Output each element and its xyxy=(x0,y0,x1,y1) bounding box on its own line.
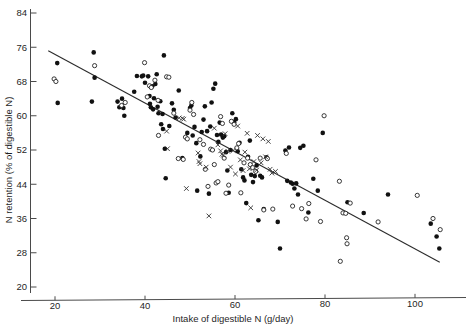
y-tick-label-36: 36 xyxy=(16,213,27,224)
data-point-open xyxy=(220,121,224,125)
data-point-filled xyxy=(213,81,218,86)
data-point-filled xyxy=(115,99,120,104)
data-point-open xyxy=(258,156,262,160)
data-point-open xyxy=(344,211,348,215)
data-point-open xyxy=(185,137,189,141)
data-point-cross xyxy=(252,159,257,164)
data-point-filled xyxy=(160,112,165,117)
data-point-open xyxy=(219,115,223,119)
data-point-filled xyxy=(203,104,208,109)
data-point-filled xyxy=(434,234,439,239)
data-point-open xyxy=(307,201,311,205)
data-point-filled xyxy=(361,211,366,216)
data-point-open xyxy=(206,184,210,188)
data-point-filled xyxy=(90,99,95,104)
data-point-open xyxy=(322,114,326,118)
data-point-filled xyxy=(242,178,247,183)
data-point-filled xyxy=(316,188,321,193)
data-point-filled xyxy=(208,124,213,129)
y-tick-label-28: 28 xyxy=(16,247,27,258)
data-point-filled xyxy=(156,111,161,116)
regression-line xyxy=(48,51,440,262)
data-point-filled xyxy=(207,191,212,196)
data-point-filled xyxy=(199,130,204,135)
data-point-open xyxy=(172,111,176,115)
data-point-filled xyxy=(91,50,96,55)
data-point-filled xyxy=(234,117,239,122)
x-tick-label-80: 80 xyxy=(320,298,331,309)
data-point-open xyxy=(192,112,196,116)
data-point-filled xyxy=(292,186,297,191)
data-point-open xyxy=(337,179,341,183)
data-point-open xyxy=(338,259,342,263)
data-point-filled xyxy=(251,180,256,185)
data-point-open xyxy=(93,64,97,68)
data-point-cross xyxy=(238,158,243,163)
data-point-filled xyxy=(190,133,195,138)
data-point-filled xyxy=(311,176,316,181)
data-point-open xyxy=(210,148,214,152)
scatter-plot: 20283644526068768420406080100Intake of d… xyxy=(0,0,467,333)
data-point-filled xyxy=(296,192,301,197)
data-point-filled xyxy=(192,125,197,130)
data-point-filled xyxy=(244,201,249,206)
data-point-open xyxy=(284,151,288,155)
data-point-open xyxy=(54,79,58,83)
data-point-filled xyxy=(428,221,433,226)
data-point-cross xyxy=(259,161,264,166)
data-point-filled xyxy=(256,218,261,223)
data-point-filled xyxy=(209,100,214,105)
data-point-filled xyxy=(151,107,156,112)
y-tick-label-52: 52 xyxy=(16,144,27,155)
data-point-filled xyxy=(122,113,127,118)
data-point-open xyxy=(181,157,185,161)
data-point-filled xyxy=(135,74,140,79)
data-point-open xyxy=(201,142,205,146)
data-point-cross xyxy=(207,214,212,219)
data-point-cross xyxy=(243,150,248,155)
y-tick-label-76: 76 xyxy=(16,42,27,53)
data-point-filled xyxy=(55,61,60,66)
data-point-filled xyxy=(211,86,216,91)
data-point-open xyxy=(345,242,349,246)
data-point-filled xyxy=(306,210,311,215)
data-point-open xyxy=(318,219,322,223)
data-point-open xyxy=(145,95,149,99)
data-point-filled xyxy=(195,188,200,193)
data-point-open xyxy=(198,138,202,142)
data-point-open xyxy=(345,236,349,240)
data-point-open xyxy=(142,61,146,65)
data-point-filled xyxy=(386,192,391,197)
data-point-open xyxy=(431,216,435,220)
data-point-cross xyxy=(233,172,238,177)
data-point-open xyxy=(156,98,160,102)
data-point-open xyxy=(239,191,243,195)
data-point-open xyxy=(291,204,295,208)
data-point-open xyxy=(246,156,250,160)
data-point-open xyxy=(314,158,318,162)
data-point-cross xyxy=(245,131,250,136)
data-point-open xyxy=(300,207,304,211)
data-point-open xyxy=(123,100,127,104)
data-point-filled xyxy=(205,129,210,134)
y-tick-label-44: 44 xyxy=(16,179,27,190)
data-point-filled xyxy=(155,104,160,109)
data-point-filled xyxy=(185,131,190,136)
data-point-filled xyxy=(141,73,146,78)
data-point-filled xyxy=(154,72,159,77)
data-point-filled xyxy=(278,246,283,251)
y-tick-label-84: 84 xyxy=(16,7,27,18)
data-point-filled xyxy=(215,133,220,138)
series-filled-circle xyxy=(55,50,442,251)
x-tick-label-20: 20 xyxy=(50,300,61,311)
data-point-cross xyxy=(266,139,271,144)
data-point-open xyxy=(212,162,216,166)
data-point-filled xyxy=(55,101,60,106)
figure-container: 20283644526068768420406080100Intake of d… xyxy=(0,0,467,333)
series-open-circle xyxy=(52,61,442,264)
data-point-open xyxy=(304,217,308,221)
data-point-filled xyxy=(176,88,181,93)
y-tick-label-68: 68 xyxy=(16,76,27,87)
x-axis-line xyxy=(21,298,466,301)
data-point-open xyxy=(227,183,231,187)
